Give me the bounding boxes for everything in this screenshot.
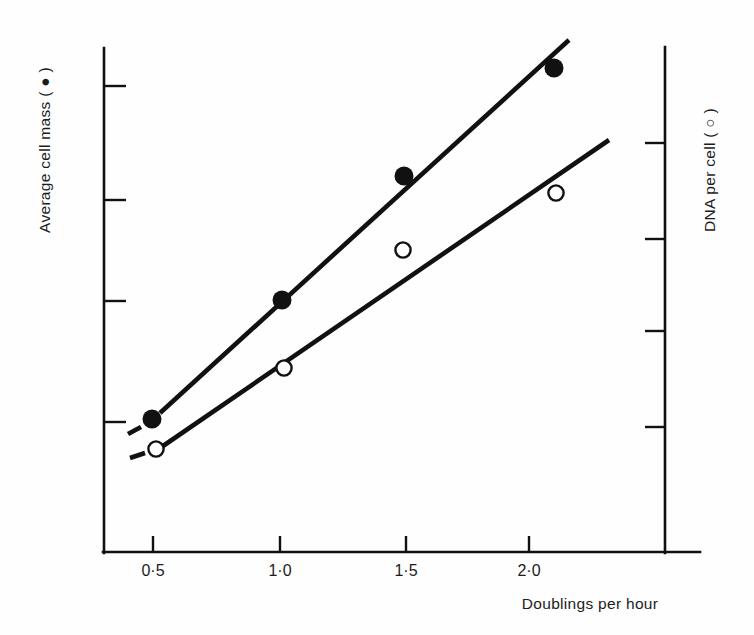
- figure-root: Average cell mass ( ● ) DNA per cell ( ○…: [0, 0, 754, 635]
- cell-mass-point-2: [273, 291, 292, 310]
- cell-mass-fit-line: [160, 40, 569, 413]
- left-axis-ticks: [104, 86, 126, 422]
- x-tick-label-1-0: 1·0: [268, 562, 291, 580]
- axis-spines: [103, 47, 700, 553]
- dna-point-2: [276, 360, 291, 375]
- dna-point-4: [548, 185, 563, 200]
- chart-plot-area: [0, 0, 754, 635]
- dna-point-3: [395, 242, 410, 257]
- x-axis-title: Doublings per hour: [522, 595, 658, 613]
- cell-mass-point-1: [143, 410, 162, 429]
- dna-point-1: [148, 441, 163, 456]
- x-tick-label-1-5: 1·5: [394, 562, 417, 580]
- right-axis-title: DNA per cell ( ○ ): [701, 108, 719, 232]
- x-tick-label-0-5: 0·5: [141, 562, 164, 580]
- cell-mass-fit-line-lead: [128, 427, 141, 434]
- right-axis-ticks: [645, 143, 665, 427]
- x-tick-label-2-0: 2·0: [517, 562, 540, 580]
- cell-mass-point-3: [395, 167, 414, 186]
- series-dna-per-cell: [130, 140, 609, 458]
- dna-fit-line-lead: [130, 453, 145, 458]
- x-axis-ticks: [153, 536, 529, 552]
- left-axis-title: Average cell mass ( ● ): [36, 67, 54, 233]
- dna-fit-line: [163, 140, 609, 446]
- series-average-cell-mass: [128, 40, 569, 434]
- cell-mass-point-4: [545, 59, 564, 78]
